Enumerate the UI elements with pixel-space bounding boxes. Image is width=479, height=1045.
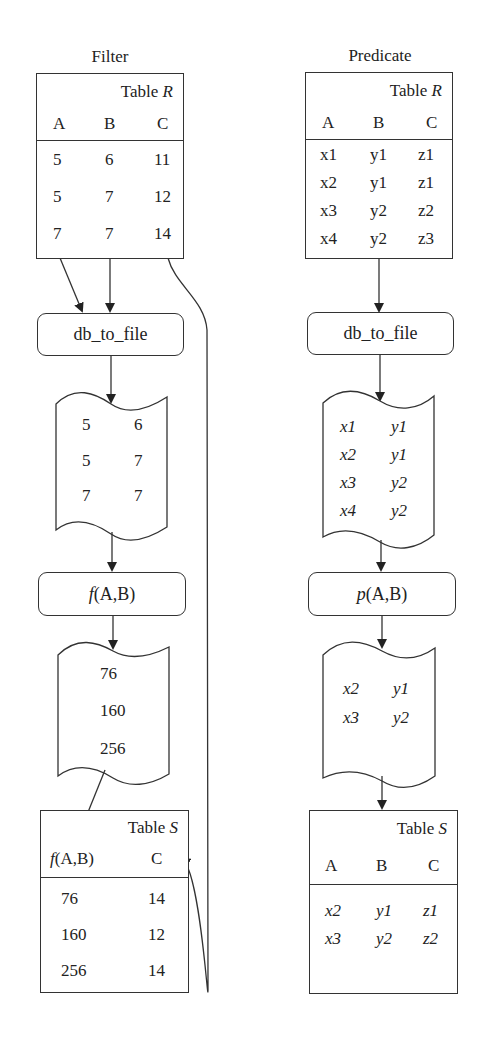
predicate-table-s: Table S A B C x2 y1 z1 x3 y2 z2 [309,810,458,994]
column-header-a: A [325,856,337,876]
column-header-b: B [104,114,115,134]
file-value: y2 [393,708,409,728]
predicate-function-step: p(A,B) [308,572,456,616]
cell: 12 [154,187,171,207]
column-header-c: C [151,849,162,869]
file-value: 7 [134,486,143,506]
file-value: x3 [340,473,356,493]
file-value: 7 [82,486,91,506]
cell: 256 [61,961,87,981]
file-value: y1 [391,417,407,437]
file-value: 7 [134,451,143,471]
cell: 5 [53,187,62,207]
predicate-title: Predicate [320,46,440,66]
table-name: Table R [121,82,173,102]
table-header: Table R A B C [306,73,452,140]
file-value: x1 [340,417,356,437]
cell: 5 [53,150,62,170]
cell: z1 [418,145,434,165]
file-value: 6 [134,415,143,435]
cell: x4 [320,229,337,249]
column-header-c: C [428,856,439,876]
file-value: x4 [340,501,356,521]
filter-db-to-file-step: db_to_file [37,313,184,356]
cell: 7 [105,187,114,207]
cell: 14 [148,961,165,981]
filter-function-step: f(A,B) [38,572,186,616]
cell: z1 [418,173,434,193]
cell: 76 [61,889,78,909]
column-header-c: C [426,113,437,133]
file-value: y2 [391,501,407,521]
column-header-b: B [373,113,384,133]
column-header-a: A [53,114,65,134]
cell: 6 [105,150,114,170]
table-name: Table R [390,81,442,101]
cell: 14 [154,224,171,244]
table-name: Table S [397,819,447,839]
predicate-db-to-file-step: db_to_file [307,312,454,355]
table-header: Table S f(A,B) C [41,811,188,878]
cell: y1 [370,145,387,165]
cell: y1 [376,901,392,921]
cell: y2 [370,229,387,249]
file-value: x2 [340,445,356,465]
column-header-c: C [157,114,168,134]
column-header-a: A [322,113,334,133]
cell: x2 [325,901,341,921]
file-value: 256 [100,739,126,759]
filter-table-s: Table S f(A,B) C 76 14 160 12 256 14 [40,810,189,993]
cell: 12 [148,925,165,945]
cell: x2 [320,173,337,193]
cell: 7 [53,224,62,244]
file-value: y1 [393,679,409,699]
cell: y2 [370,201,387,221]
table-name: Table S [128,818,178,838]
file-value: 76 [100,664,117,684]
cell: 160 [61,925,87,945]
cell: x3 [325,929,341,949]
table-header: Table R A B C [37,74,183,141]
cell: x1 [320,145,337,165]
cell: z2 [418,201,434,221]
cell: z2 [423,929,438,949]
filter-title: Filter [60,47,160,67]
cell: y1 [370,173,387,193]
cell: z1 [423,901,438,921]
cell: x3 [320,201,337,221]
file-value: y2 [391,473,407,493]
filter-table-r: Table R A B C 5 6 11 5 7 12 7 7 14 [36,73,184,259]
cell: 11 [154,150,170,170]
file-value: x2 [343,679,359,699]
cell: z3 [418,229,434,249]
column-header-b: B [376,856,387,876]
cell: 14 [148,889,165,909]
cell: y2 [376,929,392,949]
table-header: Table S A B C [310,811,457,885]
predicate-table-r: Table R A B C x1 y1 z1 x2 y1 z1 x3 y2 z2… [305,72,453,259]
column-header-fab: f(A,B) [50,849,94,869]
file-value: 160 [100,701,126,721]
cell: 7 [105,224,114,244]
file-value: y1 [391,445,407,465]
file-value: x3 [343,708,359,728]
file-value: 5 [82,451,91,471]
file-value: 5 [82,415,91,435]
